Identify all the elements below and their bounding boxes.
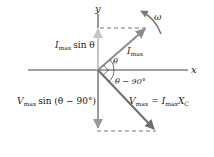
omega-label: ω [154,12,162,22]
current-projection-label: Imaxsin θ [54,40,95,51]
theta-minus-90-arc [109,70,114,82]
theta-minus-90-label: θ − 90° [115,77,146,86]
y-axis-label: y [94,3,101,14]
x-axis-label: x [191,64,197,75]
voltage-phasor-equation: Vmax=ImaxXC [129,96,189,107]
voltage-projection-label: Vmaxsin (θ − 90°) [17,96,96,107]
theta-angle-label: θ [113,57,118,66]
current-phasor-label: Imax [126,46,144,57]
phasor-diagram: y x ω Imaxsin θ Imax θ θ − 90° Vmaxsin (… [0,0,214,157]
